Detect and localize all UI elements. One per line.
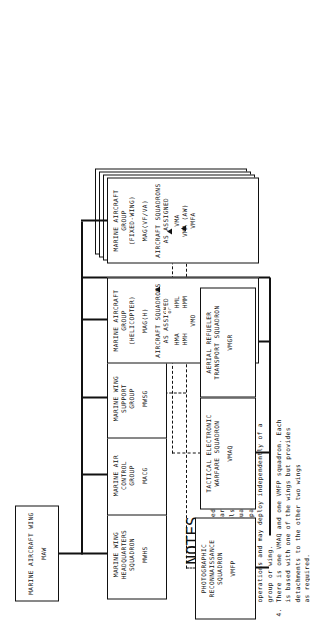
node-vmaq-code: VMAQ [226,445,234,462]
connector-main-bus [81,221,83,554]
node-vmfp[interactable]: PHOTOGRAPHIC RECONNAISSANCE SQUADRON VMF… [195,517,256,619]
connector-independent-bus [269,277,271,535]
node-macg-code: MACG [141,467,149,484]
node-macg[interactable]: MARINE AIR CONTROL GROUP MACG [107,435,167,515]
node-mag-fw-assigned-label-0: AIRCRAFT SQUADRONS [154,183,162,257]
node-mag-h-assigned-0: HMA HML [173,295,181,345]
node-mag-fw-assigned-0: VMA [173,214,181,226]
node-mag-fw-line-2: (FIXED-WING) [128,195,136,245]
node-mag-h-line-0: MARINE AIRCRAFT [112,289,120,351]
node-maw-code: MAW [40,547,48,559]
node-mag-h-assigned-2: VMO [189,314,197,326]
connector-macg [81,474,107,476]
node-mwsg-line-0: MARINE WING [112,375,120,420]
node-mag-h-line-2: (HELICOPTER) [128,295,136,345]
arrow-vmaq-to-magfw [167,228,172,234]
node-mag-h-line-1: GROUP [120,310,128,331]
connector-mwhs [81,553,107,555]
node-mag-h-code: MAG(H) [141,308,149,333]
note-item: 4. There is one VMAQ and one VMFP squadr… [274,401,310,616]
node-mwsg-code: MWSG [141,390,149,407]
node-mag-fixedwing[interactable]: MARINE AIRCRAFT GROUP (FIXED-WING) MAG(V… [107,177,259,263]
dash-vmaq-riser [172,452,201,453]
arrow-to-mag-h [155,286,160,292]
node-vmgr-code: VMGR [226,334,234,351]
connector-maw-drop [59,553,81,555]
node-vmaq-line-0: TACTICAL ELECTRONIC [205,414,213,492]
node-maw-line-0: MARINE AIRCRAFT WING [27,512,35,595]
chart-page: MARINE AIRCRAFT WING MAW MARINE WING HEA… [0,0,310,625]
node-vmaq-line-1: WARFARE SQUADRON [213,420,221,486]
node-mag-fw-assigned-2: VMFA [189,212,197,229]
node-macg-line-0: MARINE AIR [112,454,120,495]
node-mag-fw-line-1: GROUP [120,210,128,231]
node-mag-fw-code: MAG(VF/VA) [141,199,149,240]
note-text: There is one VMAQ and one VMFP squadron.… [274,419,310,602]
node-mwhs[interactable]: MARINE WING HEADQUARTERS SQUADRON MWHS [107,509,167,599]
node-mwsg[interactable]: MARINE WING SUPPORT GROUP MWSG [107,358,167,438]
node-maw[interactable]: MARINE AIRCRAFT WING MAW [15,505,59,601]
node-vmgr-line-0: AERIAL REFUELER [205,311,213,373]
node-mag-fw-line-0: MARINE AIRCRAFT [112,189,120,251]
node-mag-h-assigned-1: HMH HMM [181,295,189,345]
node-mag-h-assigned-label-0: AIRCRAFT SQUADRONS [154,283,162,357]
node-vmgr-line-1: TRANSPORT SQUADRON [213,305,221,379]
node-mwhs-code: MWHS [141,546,149,563]
node-mwhs-line-1: HEADQUARTERS [120,529,128,579]
note-number: 4. [274,602,310,616]
connector-mag-fw [81,220,107,222]
node-mwsg-line-1: SUPPORT [120,384,128,413]
connector-vmfp [256,567,269,569]
connector-mag-h [81,319,107,321]
connector-or-label: or [166,305,172,314]
node-macg-line-2: GROUP [128,465,136,486]
node-mwsg-line-2: GROUP [128,388,136,409]
node-vmaq[interactable]: TACTICAL ELECTRONIC WARFARE SQUADRON VMA… [200,397,256,509]
node-mwhs-line-2: SQUADRON [128,538,136,571]
node-vmgr[interactable]: AERIAL REFUELER TRANSPORT SQUADRON VMGR [200,287,256,397]
org-chart-canvas: MARINE AIRCRAFT WING MAW MARINE WING HEA… [0,0,310,625]
node-mwhs-line-0: MARINE WING [112,531,120,576]
node-mag-fw-assigned-label-1: AS ASSIGNED [162,197,170,242]
node-vmfp-code: VMFP [229,560,237,577]
node-vmfp-line-2: SQUADRON [216,552,224,585]
connector-mwsg [81,397,107,399]
node-mag-fw-assigned-1: VMA (AW) [181,204,189,237]
arrow-vmfp-to-magfw [181,225,186,231]
node-vmfp-line-0: PHOTOGRAPHIC [200,543,208,593]
node-mag-h-assigned-label-1: AS ASSIGNED [162,297,170,342]
node-macg-line-1: CONTROL [120,461,128,490]
connector-vmaq [256,452,269,454]
node-vmfp-line-1: RECONNAISSANCE [208,539,216,597]
